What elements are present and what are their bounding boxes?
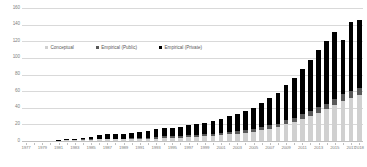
legend-label: Empirical (Public) [101,45,137,50]
bar-column [168,8,176,141]
x-axis-tick [180,143,181,145]
bar-stack [227,116,232,141]
x-axis-tick-group: 2005 [250,143,258,163]
bar-stack [146,131,151,141]
bar-segment-conceptual [316,113,321,141]
bar-stack [349,22,354,141]
bar-column [144,8,152,141]
bar-column [38,8,46,141]
bar-segment-conceptual [349,98,354,141]
bar-stack [194,124,199,141]
x-axis: 1977197919811983198519871989199119931995… [22,143,363,163]
bar-segment-empirical-private [251,108,256,130]
bar-segment-empirical-private [146,131,151,138]
bar-segment-conceptual [259,130,264,141]
bar-column [30,8,38,141]
x-axis-tick [83,143,84,145]
bar-segment-empirical-public [332,99,337,106]
bar-column [71,8,79,141]
x-axis-tick-group: 1999 [201,143,209,163]
bar-segment-empirical-private [316,50,321,107]
x-axis-tick-group: 1981 [55,143,63,163]
x-axis-tick [343,143,344,145]
bar-column [46,8,54,141]
bar-segment-conceptual [243,133,248,141]
x-axis-tick-group: 1977 [22,143,30,163]
x-axis-tick [278,143,279,145]
x-axis-tick [132,143,133,145]
bar-stack [235,114,240,141]
bar-segment-empirical-private [235,114,240,131]
bar-segment-empirical-private [284,85,289,120]
bar-segment-conceptual [357,95,362,141]
bar-column [63,8,71,141]
x-axis-tick-group: 1989 [120,143,128,163]
legend-item[interactable]: Empirical (Public) [96,45,137,50]
bar-segment-empirical-private [349,22,354,91]
bar-segment-empirical-private [267,98,272,125]
bar-column [87,8,95,141]
y-axis-tick-label: 140 [2,22,20,27]
bar-segment-empirical-private [308,60,313,111]
bar-stack [121,134,126,141]
bar-segment-empirical-private [341,40,346,95]
x-axis-tick [34,143,35,145]
bar-segment-conceptual [227,134,232,141]
bar-segment-conceptual [276,127,281,141]
bar-segment-empirical-public [341,94,346,101]
bar-column [298,8,306,141]
bar-segment-conceptual [300,119,305,141]
bar-column [306,8,314,141]
legend-label: Empirical (Private) [165,45,203,50]
bar-stack [162,128,167,141]
legend-item[interactable]: Empirical (Private) [159,45,202,50]
bar-column [136,8,144,141]
bar-column [22,8,30,141]
bar-column [55,8,63,141]
bar-segment-empirical-private [194,124,199,135]
bar-segment-empirical-private [219,119,224,133]
bar-column [185,8,193,141]
bar-stack [308,60,313,141]
x-axis-tick-group: 1983 [71,143,79,163]
bar-segment-conceptual [267,129,272,141]
bar-column [128,8,136,141]
bar-column [152,8,160,141]
bar-column [250,8,258,141]
bar-segment-conceptual [341,101,346,141]
bar-stack [341,40,346,141]
x-axis-tick-group: 1993 [152,143,160,163]
legend-item[interactable]: Conceptual [45,45,74,50]
bar-column [233,8,241,141]
x-axis-tick [115,143,116,145]
bar-column [323,8,331,141]
x-axis-tick-group: 1987 [103,143,111,163]
bar-column [258,8,266,141]
bar-column [176,8,184,141]
bar-column [339,8,347,141]
bar-column [266,8,274,141]
bar-series-group [22,8,363,141]
x-axis-tick-group: 1979 [38,143,46,163]
bar-stack [211,121,216,141]
x-axis-tick [164,143,165,145]
y-axis-tick-label: 20 [2,122,20,127]
bar-segment-empirical-private [276,93,281,124]
bar-stack [300,69,305,141]
plot-area [22,8,363,141]
bar-segment-empirical-private [211,121,216,134]
x-axis-tick-group: 1991 [136,143,144,163]
x-axis-tick [245,143,246,145]
bar-stack [324,41,329,141]
y-axis-tick-label: 60 [2,89,20,94]
bar-stack [276,93,281,141]
bar-stack [178,127,183,141]
bar-stack [284,85,289,141]
x-axis-tick [148,143,149,145]
x-axis-tick-group: 2009 [282,143,290,163]
bar-stack [154,129,159,141]
bar-column [111,8,119,141]
y-axis: 020406080100120140160 [0,8,20,141]
bar-stack [251,108,256,141]
x-axis-line [22,141,363,142]
